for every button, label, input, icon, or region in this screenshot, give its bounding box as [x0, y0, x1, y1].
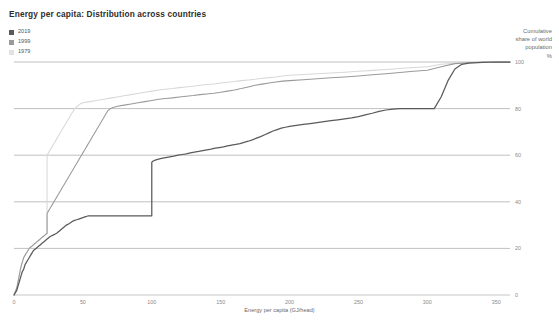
series-line-1979 [14, 62, 510, 295]
x-axis-title: Energy per capita (GJ/head) [0, 307, 559, 313]
legend-label-2019: 2019 [18, 29, 30, 35]
chart-figure: Energy per capita: Distribution across c… [0, 0, 559, 324]
x-tick-label: 0 [13, 299, 16, 305]
chart-title: Energy per capita: Distribution across c… [9, 9, 206, 19]
chart-legend: 2019 1999 1979 [9, 28, 30, 58]
legend-item-1979[interactable]: 1979 [9, 48, 30, 56]
series-line-1999 [14, 62, 510, 295]
legend-item-1999[interactable]: 1999 [9, 38, 30, 46]
y-tick-label: 0 [515, 292, 518, 298]
series-lines [14, 62, 510, 295]
legend-swatch-1999 [9, 40, 14, 45]
x-tick-label: 250 [354, 299, 363, 305]
x-tick-label: 100 [147, 299, 156, 305]
plot-area [14, 62, 510, 295]
x-tick-label: 50 [80, 299, 86, 305]
y-axis-caption-line1: Cumulative [516, 27, 552, 35]
y-axis-caption: Cumulative share of world population % [516, 27, 552, 60]
plot-svg [14, 62, 510, 295]
gridlines [14, 62, 510, 295]
y-tick-label: 80 [515, 106, 521, 112]
legend-swatch-1979 [9, 50, 14, 55]
legend-item-2019[interactable]: 2019 [9, 28, 30, 36]
y-tick-label: 20 [515, 245, 521, 251]
y-axis-caption-line2: share of world [516, 35, 552, 43]
legend-label-1999: 1999 [18, 39, 30, 45]
y-tick-label: 60 [515, 152, 521, 158]
legend-label-1979: 1979 [18, 49, 30, 55]
x-tick-label: 200 [285, 299, 294, 305]
y-axis-caption-line3: population [516, 43, 552, 51]
x-tick-label: 350 [492, 299, 501, 305]
legend-swatch-2019 [9, 30, 14, 35]
x-tick-label: 150 [216, 299, 225, 305]
y-tick-label: 40 [515, 199, 521, 205]
y-tick-label: 100 [515, 59, 524, 65]
series-line-2019 [14, 62, 510, 295]
x-tick-label: 300 [423, 299, 432, 305]
